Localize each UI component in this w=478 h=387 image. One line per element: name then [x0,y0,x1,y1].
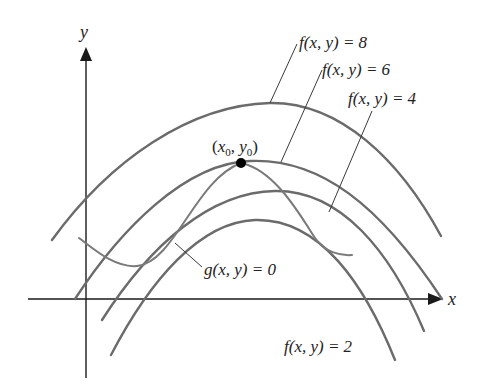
axes: x y [28,22,456,378]
x-axis-label: x [447,289,456,309]
leader-f6 [281,70,322,162]
tangent-point-marker [236,158,246,168]
label-g0: g(x, y) = 0 [204,260,276,279]
label-f4: f(x, y) = 4 [348,89,417,108]
label-f6: f(x, y) = 6 [322,60,391,79]
y-axis-label: y [78,22,88,42]
level-curves [52,103,442,360]
label-f2: f(x, y) = 2 [284,337,353,356]
leader-f4 [329,111,372,212]
lagrange-level-curve-diagram: x y (x0, y0) f(x, y) = 8 f(x, y) = 6 f(x… [0,0,478,387]
constraint-curve-g [79,163,352,266]
tangent-point-label: (x0, y0) [212,137,258,158]
label-f8: f(x, y) = 8 [299,33,368,52]
leader-f8 [270,44,297,103]
level-curve-f8 [52,103,441,240]
y-axis-arrow-icon [80,47,92,61]
level-curve-f2 [111,220,395,360]
leader-g0 [175,243,202,267]
